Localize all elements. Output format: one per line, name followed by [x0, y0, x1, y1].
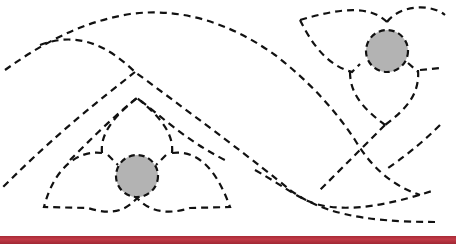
bottom-right-curve	[255, 170, 435, 208]
right-edge-diagonal	[385, 125, 440, 170]
upper-flower-stem-right	[408, 63, 418, 72]
pattern-svg	[0, 0, 456, 244]
upper-flower-left-petal	[300, 10, 387, 22]
upper-flower-left-leaf	[300, 20, 360, 72]
upper-flower-right-petal	[387, 7, 445, 22]
upper-flower-lower-right	[385, 70, 418, 125]
quilting-pattern-diagram	[0, 0, 456, 244]
upper-flower-center-circle	[366, 30, 408, 72]
upper-flower-lower-left	[350, 72, 385, 125]
lower-flower-top-right	[137, 98, 172, 153]
lower-flower-stem-right	[156, 155, 166, 165]
lower-flower-top-left	[102, 98, 137, 153]
upper-flower-right-leaf	[420, 68, 440, 70]
bottom-red-band	[0, 236, 456, 244]
left-diagonal-line	[0, 72, 135, 190]
lower-flower-stem-left	[108, 155, 118, 165]
lower-flower-center-circle	[116, 155, 158, 197]
right-diagonal-line	[320, 125, 385, 190]
